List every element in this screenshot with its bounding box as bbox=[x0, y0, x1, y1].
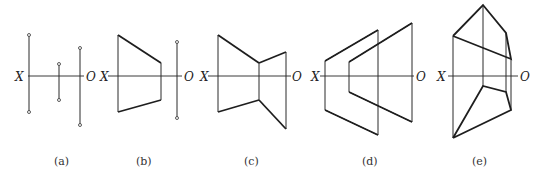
figure-d: X O (d) bbox=[310, 23, 426, 168]
axis-label-o: O bbox=[292, 70, 302, 84]
plane-2-bottom-edge bbox=[349, 92, 412, 122]
projection-diagrams: X O (a) X O (b) X O (c) bbox=[0, 0, 538, 181]
plane-1-top-edge bbox=[325, 30, 378, 61]
point-marker bbox=[28, 111, 31, 114]
axis-label-x: X bbox=[436, 70, 446, 84]
point-marker bbox=[58, 63, 61, 66]
point-marker bbox=[28, 34, 31, 37]
figure-a: X O (a) bbox=[14, 34, 96, 169]
edge-bottom-left bbox=[218, 100, 259, 112]
axis-label-o: O bbox=[184, 70, 194, 84]
bottom-polygon bbox=[453, 86, 511, 138]
figure-b: X O (b) bbox=[99, 35, 194, 168]
figure-e: X O (e) bbox=[436, 5, 530, 168]
axis-label-x: X bbox=[99, 70, 109, 84]
top-polygon bbox=[453, 5, 511, 59]
figure-c: X O (c) bbox=[199, 35, 302, 168]
caption-c: (c) bbox=[244, 155, 259, 168]
axis-label-x: X bbox=[14, 70, 24, 84]
point-marker bbox=[176, 117, 179, 120]
axis-label-x: X bbox=[310, 70, 320, 84]
plane-2-top-edge bbox=[349, 23, 412, 62]
axis-label-o: O bbox=[86, 70, 96, 84]
axis-label-o: O bbox=[416, 70, 426, 84]
plane-1-bottom-edge bbox=[325, 110, 378, 135]
caption-b: (b) bbox=[136, 155, 152, 168]
caption-e: (e) bbox=[472, 155, 487, 168]
edge-top-left bbox=[218, 35, 259, 63]
plane-edge-bottom bbox=[118, 100, 161, 112]
point-marker bbox=[79, 47, 82, 50]
axis-label-x: X bbox=[199, 70, 209, 84]
point-marker bbox=[79, 124, 82, 127]
axis-label-o: O bbox=[520, 70, 530, 84]
caption-a: (a) bbox=[54, 155, 69, 168]
point-marker bbox=[58, 99, 61, 102]
plane-edge-top bbox=[118, 35, 161, 63]
caption-d: (d) bbox=[362, 155, 378, 168]
point-marker bbox=[176, 41, 179, 44]
edge-top-right bbox=[259, 52, 286, 63]
edge-bottom-right bbox=[259, 100, 286, 129]
